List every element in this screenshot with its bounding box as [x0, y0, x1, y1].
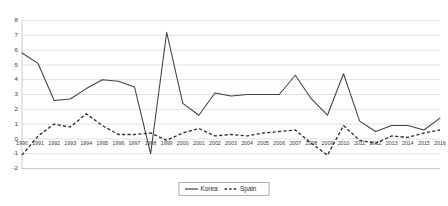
y-tick-label: -1 [12, 149, 18, 156]
x-tick-label: 2009 [322, 140, 334, 146]
line-chart: 876543210-1-2 19901991199219931994199519… [0, 0, 448, 206]
x-tick-label: 2010 [338, 140, 350, 146]
x-tick-label: 2001 [193, 140, 205, 146]
legend-label-spain: Spain [240, 185, 257, 193]
x-tick-label: 1995 [96, 140, 108, 146]
x-tick-label: 2004 [241, 140, 253, 146]
y-axis-tick-labels: 876543210-1-2 [12, 16, 18, 171]
y-tick-label: 5 [15, 61, 19, 68]
chart-legend: KoreaSpain [179, 183, 269, 196]
x-tick-label: 1992 [48, 140, 60, 146]
x-tick-label: 2003 [225, 140, 237, 146]
y-tick-label: 2 [15, 105, 19, 112]
x-tick-label: 1994 [80, 140, 92, 146]
gridlines-group [22, 21, 440, 169]
x-tick-label: 2013 [386, 140, 398, 146]
x-tick-label: 2014 [402, 140, 414, 146]
legend-label-korea: Korea [201, 185, 218, 192]
data-series-group [22, 32, 440, 155]
x-tick-label: 2006 [273, 140, 285, 146]
series-line-spain [22, 114, 440, 155]
x-tick-label: 1998 [145, 140, 157, 146]
y-tick-label: -2 [12, 164, 18, 171]
y-tick-label: 6 [15, 46, 19, 53]
x-tick-label: 1993 [64, 140, 76, 146]
x-tick-label: 2007 [289, 140, 301, 146]
y-tick-label: 4 [15, 75, 19, 82]
y-tick-label: 7 [15, 31, 19, 38]
x-tick-label: 2000 [177, 140, 189, 146]
x-tick-label: 2002 [209, 140, 221, 146]
x-tick-label: 1996 [113, 140, 125, 146]
y-tick-label: 8 [15, 16, 19, 23]
x-tick-label: 2015 [418, 140, 430, 146]
x-tick-label: 2016 [434, 140, 446, 146]
y-tick-label: 1 [15, 120, 19, 127]
y-tick-label: 3 [15, 90, 19, 97]
chart-canvas: 876543210-1-2 19901991199219931994199519… [0, 0, 448, 206]
x-tick-label: 2005 [257, 140, 269, 146]
x-tick-label: 1990 [16, 140, 28, 146]
x-tick-label: 1997 [129, 140, 141, 146]
series-line-korea [22, 32, 440, 153]
